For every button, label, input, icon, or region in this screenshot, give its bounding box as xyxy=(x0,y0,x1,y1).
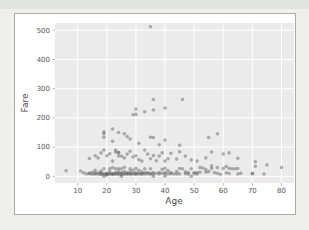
data-point xyxy=(152,154,156,158)
age-fare-scatter-chart: 10203040506070800100200300400500 Age Far… xyxy=(15,14,295,214)
data-point xyxy=(189,158,193,162)
x-tick-label: 40 xyxy=(161,187,170,195)
data-point xyxy=(102,167,106,171)
data-point xyxy=(140,159,144,163)
x-tick-label: 60 xyxy=(219,187,228,195)
data-point xyxy=(149,157,153,161)
data-point xyxy=(143,148,147,152)
data-point xyxy=(96,156,100,160)
data-point xyxy=(198,171,202,175)
data-point xyxy=(149,167,153,171)
data-point xyxy=(152,108,156,112)
data-point xyxy=(157,143,161,147)
x-tick-label: 20 xyxy=(102,187,111,195)
data-point xyxy=(93,154,97,158)
y-tick-label: 500 xyxy=(37,27,50,35)
x-tick-label: 70 xyxy=(248,187,257,195)
data-point xyxy=(178,144,182,148)
data-point xyxy=(102,148,106,152)
data-point xyxy=(152,175,156,179)
data-point xyxy=(181,98,185,102)
data-point xyxy=(216,166,220,170)
data-point xyxy=(189,175,193,179)
data-point xyxy=(120,175,124,179)
data-point xyxy=(163,106,167,110)
data-point xyxy=(219,172,223,176)
data-point xyxy=(169,151,173,155)
data-point xyxy=(128,149,132,153)
data-point xyxy=(222,152,226,156)
data-point xyxy=(175,157,179,161)
data-point xyxy=(163,159,167,163)
data-point xyxy=(265,163,269,167)
data-point xyxy=(155,159,159,163)
data-point xyxy=(117,131,121,135)
data-point xyxy=(111,139,115,143)
data-point xyxy=(195,159,199,163)
page-top-strip xyxy=(0,0,309,9)
data-point xyxy=(102,135,106,139)
data-point xyxy=(64,169,68,173)
data-point xyxy=(187,171,191,175)
data-point xyxy=(111,159,115,163)
data-point xyxy=(152,98,156,102)
data-point xyxy=(160,151,164,155)
x-axis-title: Age xyxy=(165,196,183,206)
data-point xyxy=(157,154,161,158)
data-point xyxy=(125,135,129,139)
x-tick-label: 50 xyxy=(190,187,199,195)
data-point xyxy=(99,169,103,173)
notebook-output-area: 10203040506070800100200300400500 Age Far… xyxy=(0,0,309,230)
data-point xyxy=(111,127,115,131)
y-tick-label: 200 xyxy=(37,114,50,122)
data-point xyxy=(143,110,147,114)
data-point xyxy=(102,132,106,136)
data-point xyxy=(123,165,127,169)
data-point xyxy=(123,132,127,136)
x-tick-label: 80 xyxy=(277,187,286,195)
data-point xyxy=(134,107,138,111)
data-point xyxy=(251,172,255,176)
data-point xyxy=(128,137,132,141)
data-point xyxy=(280,166,284,170)
data-point xyxy=(146,152,150,156)
data-point xyxy=(262,172,266,176)
data-point xyxy=(227,151,231,155)
data-point xyxy=(216,132,220,136)
data-point xyxy=(134,154,138,158)
data-point xyxy=(166,157,170,161)
data-point xyxy=(181,167,185,171)
y-tick-label: 300 xyxy=(37,85,50,93)
data-point xyxy=(137,142,141,146)
data-point xyxy=(254,164,258,168)
data-point xyxy=(236,156,240,160)
data-point xyxy=(207,136,211,140)
data-point xyxy=(189,167,193,171)
data-point xyxy=(149,25,153,29)
data-point xyxy=(175,170,179,174)
data-point xyxy=(125,152,129,156)
y-axis-title: Fare xyxy=(20,93,30,112)
data-point xyxy=(88,157,92,161)
data-point xyxy=(254,160,258,164)
data-point xyxy=(117,151,121,155)
data-point xyxy=(239,171,243,175)
data-point xyxy=(99,151,103,155)
figure-card: 10203040506070800100200300400500 Age Far… xyxy=(14,13,296,215)
data-point xyxy=(143,167,147,171)
data-point xyxy=(93,169,97,173)
data-point xyxy=(163,138,167,142)
y-tick-label: 0 xyxy=(46,173,50,181)
x-tick-label: 30 xyxy=(131,187,140,195)
data-point xyxy=(210,164,214,168)
data-point xyxy=(134,113,138,117)
y-tick-label: 100 xyxy=(37,143,50,151)
y-tick-label: 400 xyxy=(37,56,50,64)
data-point xyxy=(204,156,208,160)
data-point xyxy=(108,152,112,156)
x-tick-label: 10 xyxy=(73,187,82,195)
data-point xyxy=(210,150,214,154)
data-point xyxy=(184,154,188,158)
data-point xyxy=(178,172,182,176)
data-point xyxy=(207,170,211,174)
